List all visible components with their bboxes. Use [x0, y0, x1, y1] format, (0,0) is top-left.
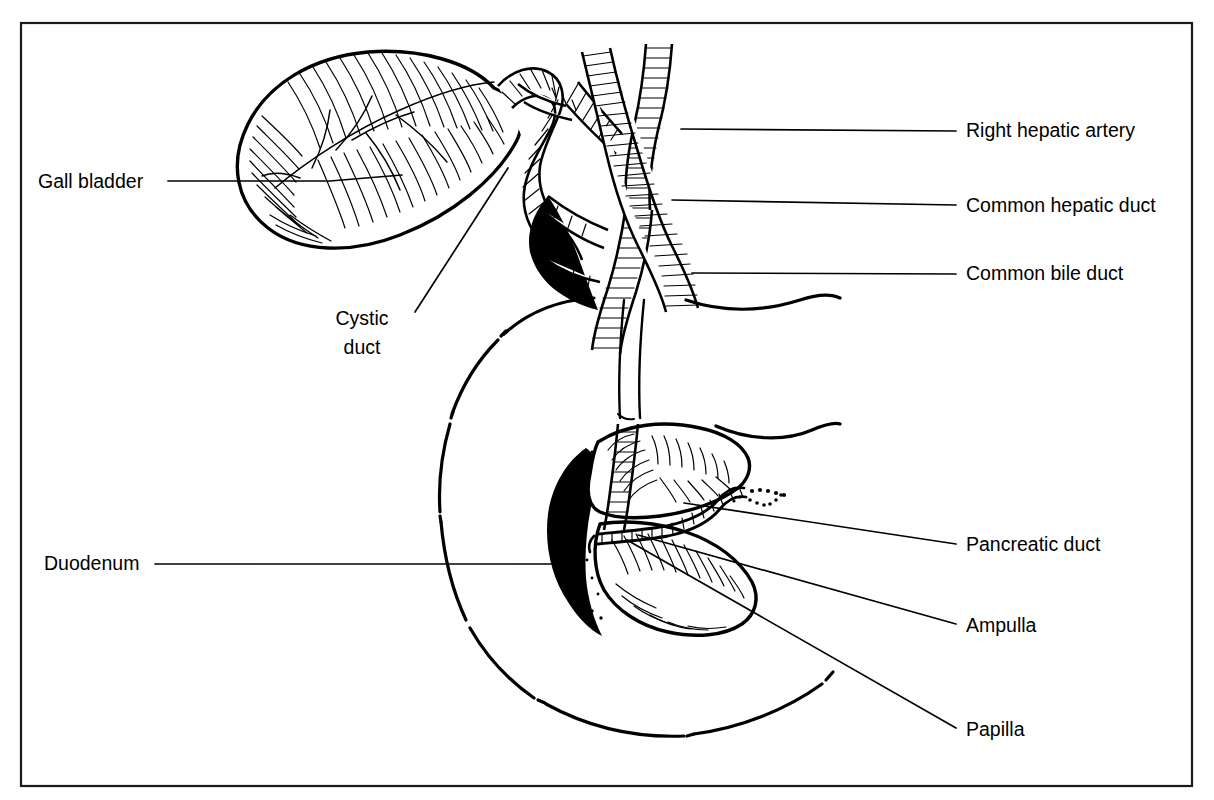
label-papilla: Papilla — [966, 718, 1025, 740]
label-duodenum: Duodenum — [44, 552, 139, 574]
label-gall-bladder: Gall bladder — [38, 170, 144, 192]
label-common-hepatic-duct: Common hepatic duct — [966, 194, 1156, 216]
label-right-hepatic-artery: Right hepatic artery — [966, 119, 1135, 141]
label-ampulla: Ampulla — [966, 614, 1037, 636]
label-common-bile-duct: Common bile duct — [966, 262, 1124, 284]
leader-common-bile-duct — [692, 273, 956, 274]
label-cystic-duct-line2: duct — [344, 336, 381, 358]
label-pancreatic-duct: Pancreatic duct — [966, 533, 1101, 555]
label-cystic-duct-line1: Cystic — [335, 307, 388, 329]
anatomy-figure: Gall bladder Cystic duct Duodenum Right … — [0, 0, 1214, 800]
diagram-canvas: Gall bladder Cystic duct Duodenum Right … — [0, 0, 1214, 800]
